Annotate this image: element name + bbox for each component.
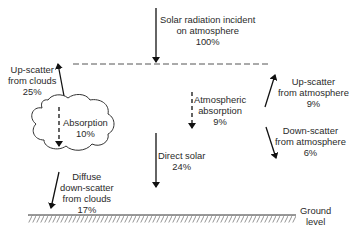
label-line: 9%	[278, 98, 349, 109]
upscatter-atmosphere-arrow	[265, 75, 275, 107]
label-upscatter-atmosphere: Up-scatter from atmosphere 9%	[278, 76, 349, 109]
label-line: 17%	[60, 204, 114, 215]
label-direct-solar: Direct solar 24%	[158, 150, 205, 172]
label-line: from clouds	[8, 75, 56, 86]
label-line: from atmosphere	[275, 136, 346, 147]
label-cloud-absorption: Absorption 10%	[63, 117, 108, 139]
ground-hatching	[28, 216, 296, 223]
label-line: 100%	[160, 36, 255, 47]
label-line: 10%	[63, 128, 108, 139]
label-line: Atmospheric	[194, 94, 246, 105]
label-line: Ground	[300, 205, 331, 216]
label-line: down-scatter	[60, 182, 114, 193]
label-incident: Solar radiation incident on atmosphere 1…	[160, 14, 255, 47]
label-line: Up-scatter	[8, 64, 56, 75]
label-upscatter-clouds: Up-scatter from clouds 25%	[8, 64, 56, 97]
label-line: from clouds	[60, 193, 114, 204]
label-line: Down-scatter	[275, 125, 346, 136]
label-line: Absorption	[63, 117, 108, 128]
diffuse-downscatter-arrow	[51, 172, 59, 208]
label-line: from atmosphere	[278, 87, 349, 98]
label-line: 25%	[8, 86, 56, 97]
label-line: Up-scatter	[278, 76, 349, 87]
label-line: 6%	[275, 147, 346, 158]
label-line: on atmosphere	[160, 25, 255, 36]
label-line: 9%	[194, 116, 246, 127]
label-line: Solar radiation incident	[160, 14, 255, 25]
label-downscatter-atmosphere: Down-scatter from atmosphere 6%	[275, 125, 346, 158]
label-line: 24%	[158, 161, 205, 172]
label-ground-level: Ground level	[300, 205, 331, 227]
upscatter-clouds-arrow	[58, 64, 64, 96]
label-line: level	[300, 216, 331, 227]
label-atmospheric-absorption: Atmospheric absorption 9%	[194, 94, 246, 127]
label-line: Diffuse	[60, 171, 114, 182]
label-line: absorption	[194, 105, 246, 116]
label-line: Direct solar	[158, 150, 205, 161]
label-diffuse-clouds: Diffuse down-scatter from clouds 17%	[60, 171, 114, 215]
